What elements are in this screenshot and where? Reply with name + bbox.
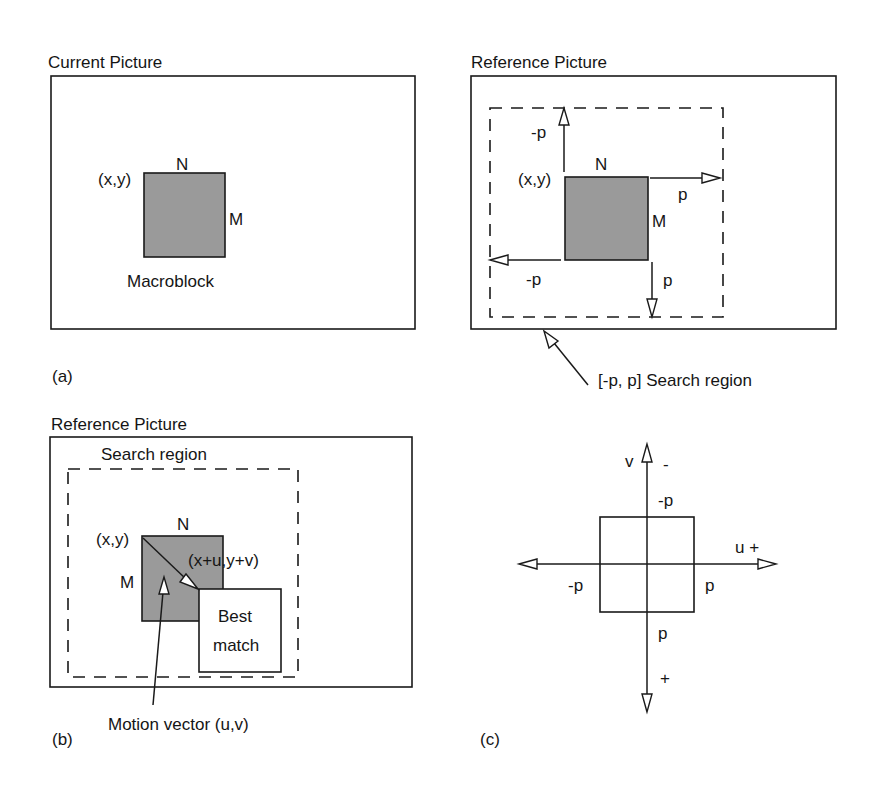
down-label: p: [663, 271, 672, 290]
v-axis-label: v: [625, 452, 634, 471]
bottom-label: p: [658, 624, 667, 643]
v-axis-down-arrow-icon: [642, 694, 652, 712]
macroblock-label: Macroblock: [127, 272, 214, 291]
reference-picture-title: Reference Picture: [51, 415, 187, 434]
block-origin-label: (x,y): [518, 170, 551, 189]
panel-a-reference-picture: Reference Picture -p N (x,y) p M -p p [-…: [471, 53, 836, 390]
down-arrow-head-icon: [647, 299, 657, 317]
caption-c: (c): [480, 730, 500, 749]
current-picture-title: Current Picture: [48, 53, 162, 72]
reference-picture-title: Reference Picture: [471, 53, 607, 72]
right-label: p: [678, 185, 687, 204]
v-axis-up-arrow-icon: [642, 444, 652, 462]
v-positive-sign: +: [660, 669, 670, 688]
panel-a-current-picture: Current Picture (x,y) N M Macroblock (a): [48, 53, 415, 386]
caption-a: (a): [52, 367, 73, 386]
left-label: -p: [526, 270, 541, 289]
motion-estimation-figure: Current Picture (x,y) N M Macroblock (a)…: [0, 0, 871, 792]
current-picture-frame: [51, 76, 415, 329]
reference-picture-frame: [471, 76, 836, 329]
u-axis-left-arrow-icon: [519, 559, 537, 569]
search-region-label: Search region: [101, 445, 207, 464]
width-label-n: N: [595, 155, 607, 174]
block-origin-label: (x,y): [96, 530, 129, 549]
motion-vector-label: Motion vector (u,v): [108, 715, 249, 734]
best-match-line2: match: [213, 636, 259, 655]
best-match-line1: Best: [218, 607, 252, 626]
search-region-callout: [-p, p] Search region: [598, 371, 752, 390]
displaced-origin-label: (x+u,y+v): [188, 551, 259, 570]
macroblock: [144, 173, 225, 257]
macroblock: [565, 177, 648, 260]
u-axis-label: u +: [735, 538, 759, 557]
panel-b-best-match: Reference Picture Search region N (x,y) …: [50, 415, 412, 749]
caption-b: (b): [52, 730, 73, 749]
panel-c-uv-axes: v - -p u + -p p p + (c): [480, 444, 776, 749]
search-region-pointer: [554, 343, 588, 385]
width-label-n: N: [177, 515, 189, 534]
up-arrow-head-icon: [559, 108, 569, 125]
left-arrow-head-icon: [490, 255, 508, 265]
height-label-m: M: [120, 573, 134, 592]
width-label-n: N: [176, 155, 188, 174]
block-origin-label: (x,y): [98, 170, 131, 189]
up-label: -p: [531, 123, 546, 142]
top-label: -p: [658, 491, 673, 510]
v-negative-sign: -: [663, 455, 669, 474]
best-match-box: [199, 589, 281, 672]
u-axis-right-arrow-icon: [758, 559, 776, 569]
right-arrow-head-icon: [702, 173, 720, 183]
left-label: -p: [568, 576, 583, 595]
height-label-m: M: [652, 212, 666, 231]
height-label-m: M: [229, 210, 243, 229]
right-label: p: [705, 576, 714, 595]
